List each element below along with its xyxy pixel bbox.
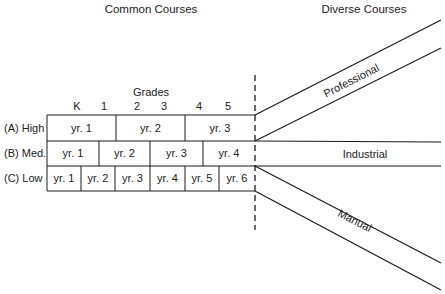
diagram: Common Courses Diverse Courses Grades K … [0, 0, 445, 294]
grades-title: Grades [133, 86, 170, 98]
track-label-professional: Professional [321, 61, 380, 99]
row-label-low: (C) Low [4, 172, 43, 184]
grade-tick-5: 5 [225, 100, 231, 112]
grade-tick-3: 3 [161, 100, 167, 112]
grade-tick-k: K [73, 100, 81, 112]
track-professional: Professional [255, 20, 441, 141]
row-label-high: (A) High [4, 122, 44, 134]
cell-med-yr3: yr. 3 [166, 147, 187, 159]
grade-tick-4: 4 [196, 100, 202, 112]
cell-high-yr3: yr. 3 [210, 122, 231, 134]
cell-med-yr2: yr. 2 [114, 147, 135, 159]
row-high: yr. 1 yr. 2 yr. 3 [71, 122, 230, 134]
track-label-industrial: Industrial [343, 148, 388, 160]
cell-low-yr4: yr. 4 [157, 172, 178, 184]
cell-low-yr1: yr. 1 [54, 172, 75, 184]
course-diagram-svg: Common Courses Diverse Courses Grades K … [0, 0, 445, 294]
common-courses-heading: Common Courses [105, 3, 198, 15]
diverse-courses-heading: Diverse Courses [322, 3, 407, 15]
grade-tick-1: 1 [101, 100, 107, 112]
cell-med-yr1: yr. 1 [63, 147, 84, 159]
cell-low-yr6: yr. 6 [227, 172, 248, 184]
cell-low-yr3: yr. 3 [122, 172, 143, 184]
grade-tick-2: 2 [134, 100, 140, 112]
track-manual: Manual [255, 166, 441, 290]
row-label-med: (B) Med. [4, 147, 46, 159]
cell-high-yr2: yr. 2 [140, 122, 161, 134]
cell-low-yr5: yr. 5 [192, 172, 213, 184]
row-med: yr. 1 yr. 2 yr. 3 yr. 4 [63, 147, 240, 159]
track-industrial: Industrial [255, 141, 441, 166]
cell-med-yr4: yr. 4 [219, 147, 240, 159]
cell-high-yr1: yr. 1 [71, 122, 92, 134]
cell-low-yr2: yr. 2 [88, 172, 109, 184]
track-label-manual: Manual [336, 207, 374, 234]
